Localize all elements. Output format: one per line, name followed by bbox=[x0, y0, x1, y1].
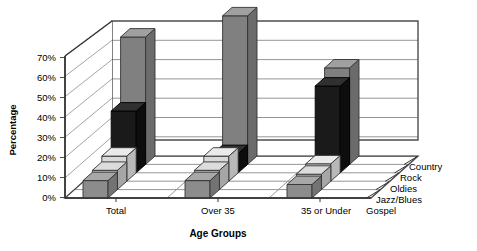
depth-tick-label-oldies: Oldies bbox=[390, 183, 417, 194]
bar-chart-3d: Percentage 70% 60% 50% 40% 30% 20% 10% 0… bbox=[0, 0, 477, 251]
y-axis-title: Percentage bbox=[7, 104, 18, 155]
y-tick-label: 50% bbox=[37, 92, 57, 103]
y-tick-label: 30% bbox=[37, 132, 57, 143]
bar-country-over35 bbox=[223, 7, 257, 164]
depth-tick-label-rock: Rock bbox=[400, 172, 422, 183]
bar-gospel-total bbox=[83, 172, 117, 198]
y-tick-label: 0% bbox=[42, 192, 56, 203]
depth-tick-label-jazz-blues: Jazz/Blues bbox=[376, 194, 422, 205]
y-tick-label: 60% bbox=[37, 72, 57, 83]
x-tick-label: 35 or Under bbox=[301, 205, 351, 216]
x-tick-label: Total bbox=[106, 205, 126, 216]
y-tick-label: 20% bbox=[37, 152, 57, 163]
x-axis-tick-labels: Total Over 35 35 or Under bbox=[106, 205, 351, 216]
x-tick-label: Over 35 bbox=[201, 205, 235, 216]
depth-tick-label-country: Country bbox=[409, 161, 443, 172]
bar-gospel-over35 bbox=[185, 172, 219, 198]
y-tick-label: 10% bbox=[37, 172, 57, 183]
bar-gospel-35orunder bbox=[287, 176, 321, 198]
x-axis-title: Age Groups bbox=[189, 228, 247, 239]
y-tick-label: 70% bbox=[37, 52, 57, 63]
chart-back-wall bbox=[112, 21, 418, 140]
y-axis-ticks bbox=[60, 58, 65, 198]
depth-tick-label-gospel: Gospel bbox=[366, 205, 396, 216]
y-axis-tick-labels: 70% 60% 50% 40% 30% 20% 10% 0% bbox=[37, 52, 57, 203]
y-tick-label: 40% bbox=[37, 112, 57, 123]
chart-container: Percentage 70% 60% 50% 40% 30% 20% 10% 0… bbox=[0, 0, 477, 251]
